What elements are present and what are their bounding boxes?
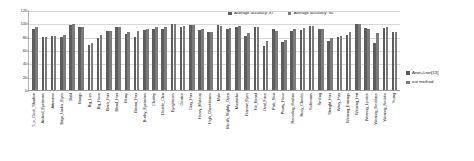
x-axis-tick-label: Wearing_Necklace [374,93,378,125]
x-axis-label-cell: Mouth_Slightly_Open [223,92,232,160]
x-axis-tick-label: Big_Lips [87,93,91,107]
bar [100,35,103,90]
bar [54,36,57,90]
x-axis-label-cell: Big_Lips [85,92,94,160]
bar-group [95,11,104,90]
bar [395,32,398,90]
x-axis-label-cell: Bags_Under_Eyes [57,92,66,160]
bar-group [104,11,113,90]
x-axis-tick-label: Brown_Hair [134,93,138,113]
x-axis-tick-label: Heavy_Makeup [198,93,202,119]
x-axis-label-cell: Wearing_Necktie [380,92,389,160]
x-axis-label-cell: Rosy_Cheeks [297,92,306,160]
plot-area: 020406080100120 [28,11,400,91]
x-axis-label-cell: Chubby [150,92,159,160]
bar [192,25,195,90]
x-axis-label-cell: Blurry [122,92,131,160]
bar-group [40,11,49,90]
bar [91,43,94,90]
bar-group [270,11,279,90]
x-axis-tick-label: Sideburns [309,93,313,110]
bar [293,29,296,90]
x-axis-label-cell: Sideburns [307,92,316,160]
bar [201,29,204,90]
x-axis-label-cell: Receding_Hairline [288,92,297,160]
bar-group [316,11,325,90]
x-axis-label-cell: Bangs [76,92,85,160]
bar-group [123,11,132,90]
legend-label-our-method: our method [412,80,433,84]
bar [247,33,250,90]
bar-series-container [29,11,400,90]
bar [118,27,121,90]
x-axis-label-cell: Pointy_Nose [279,92,288,160]
x-axis-tick-label: Eyeglasses [171,93,175,112]
bar-group [132,11,141,90]
bar [81,27,84,90]
bar [284,40,287,90]
bar [146,29,149,90]
x-axis-tick-label: Attractive [51,93,55,108]
x-axis-label-cell: No_Beard [251,92,260,160]
bar [210,32,213,90]
bar [63,35,66,90]
bar [266,41,269,90]
bar-group [252,11,261,90]
x-axis-label-cell: Double_Chin [159,92,168,160]
bar-group [150,11,159,90]
bar [386,27,389,90]
x-axis-tick-label: Bags_Under_Eyes [60,93,64,125]
bar-group [279,11,288,90]
x-axis-label-cell: Attractive [48,92,57,160]
bar-group [335,11,344,90]
bar-group [215,11,224,90]
series-legend: Anet+Lnet[13] our method [406,71,438,85]
x-axis-tick-label: Mustache [235,93,239,109]
x-axis-label-cell: Black_Hair [103,92,112,160]
bar-group [178,11,187,90]
x-axis-tick-label: Black_Hair [106,93,110,111]
x-axis-tick-label: Pale_Skin [272,93,276,110]
x-axis-tick-label: Wearing_Lipstick [365,93,369,121]
bar [72,24,75,90]
x-axis-tick-label: Wearing_Necktie [383,93,387,122]
x-axis-label-cell: Mustache [233,92,242,160]
x-axis-tick-label: Pointy_Nose [281,93,285,114]
x-axis-label-cell: Blond_Hair [113,92,122,160]
x-axis-label-cell: Eyeglasses [168,92,177,160]
bar [155,27,158,90]
bar-group [307,11,316,90]
x-axis-tick-label: Wearing_Hat [355,93,359,115]
bar-group [298,11,307,90]
x-axis-label-cell: Gray_Hair [186,92,195,160]
legend-swatch-icon-our-method [406,81,410,85]
x-axis-label-cell: Brown_Hair [131,92,140,160]
bar-group [390,11,399,90]
x-axis-tick-label: 5_o_Clock_Shadow [32,93,36,127]
x-axis-label-cell: Bald [66,92,75,160]
bar-group [243,11,252,90]
x-axis-tick-label: Bushy_Eyebrows [143,93,147,122]
x-axis-label-cell: Male [214,92,223,160]
bar-group [206,11,215,90]
x-axis-tick-label: Wavy_Hair [337,93,341,111]
bar [376,33,379,90]
bar-group [67,11,76,90]
x-axis-label-cell: Goatee [177,92,186,160]
bar [183,26,186,90]
bar [367,29,370,90]
x-axis-label-cell: Wearing_Lipstick [362,92,371,160]
x-axis-tick-label: Straight_Hair [328,93,332,115]
bar-group [77,11,86,90]
bar-group [196,11,205,90]
bar [174,24,177,90]
bar-group [169,11,178,90]
bar-group [49,11,58,90]
x-axis-label-cell: Wearing_Hat [353,92,362,160]
x-axis-label-cell: Young [390,92,399,160]
bar-group [86,11,95,90]
bar [358,24,361,90]
x-axis-label-cell: High_Cheekbones [205,92,214,160]
x-axis-label-cell: Arched_Eyebrows [39,92,48,160]
x-axis-tick-label: Wearing_Earrings [346,93,350,123]
